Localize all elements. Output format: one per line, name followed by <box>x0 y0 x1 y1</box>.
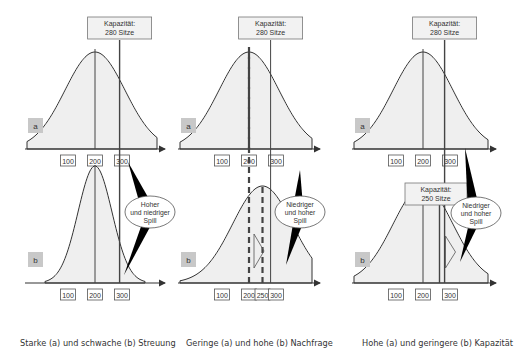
distribution-curve <box>354 52 488 149</box>
capacity-label-250-text: 250 Sitze <box>421 195 450 202</box>
tick-label: 300 <box>270 158 282 165</box>
tick-label: 100 <box>390 292 402 299</box>
spill-callout-text: und niedriger <box>130 209 170 217</box>
tick-label: 200 <box>89 292 101 299</box>
caption-nachfrage: Geringe (a) und hohe (b) Nachfrage <box>186 338 333 348</box>
spill-callout-text: und hoher <box>461 210 492 217</box>
caption-kapazitaet: Hohe (a) und geringere (b) Kapazität <box>362 338 513 348</box>
caption-streuung: Starke (a) und schwache (b) Streuung <box>20 338 176 348</box>
tick-label: 250 <box>257 292 269 299</box>
tick-label: 200 <box>417 158 429 165</box>
capacity-label-text: 280 Sitze <box>256 29 285 36</box>
tick-label: 100 <box>62 292 74 299</box>
spill-callout-text: und hoher <box>285 209 316 216</box>
tick-label: 100 <box>390 158 402 165</box>
row-label: a <box>360 122 365 131</box>
capacity-label-text: Kapazität: <box>104 20 135 28</box>
tick-label: 100 <box>216 292 228 299</box>
tick-label: 300 <box>116 292 128 299</box>
tick-label: 200 <box>417 292 429 299</box>
tick-label: 300 <box>444 292 456 299</box>
tick-label: 300 <box>116 158 128 165</box>
spill-callout-text: Spill <box>144 217 157 225</box>
capacity-label-text: 280 Sitze <box>105 29 134 36</box>
spill-callout-text: Niedriger <box>286 201 314 209</box>
tick-label: 300 <box>444 158 456 165</box>
capacity-label-text: Kapazität: <box>255 20 286 28</box>
tick-label: 100 <box>62 158 74 165</box>
spill-diagram: a100200300b100200300Kapazität:280 SitzeH… <box>0 0 531 358</box>
row-label: b <box>186 256 191 265</box>
row-label: a <box>186 122 191 131</box>
tick-label: 100 <box>216 158 228 165</box>
row-label: b <box>360 256 365 265</box>
distribution-curve <box>180 52 312 149</box>
spill-callout-text: Spill <box>294 217 307 225</box>
spill-callout-text: Spill <box>470 218 483 226</box>
capacity-label-250-text: Kapazität: <box>420 186 451 194</box>
spill-callout-text: Hoher <box>141 201 160 208</box>
row-a: a100200300 <box>25 49 165 166</box>
panel-kapazitaet: a100200300b100200300Kapazität:280 SitzeK… <box>352 17 501 300</box>
row-label: a <box>33 122 38 131</box>
panel-streuung: a100200300b100200300Kapazität:280 SitzeH… <box>25 17 175 300</box>
capacity-label-text: Kapazität: <box>429 20 460 28</box>
tick-label: 300 <box>270 292 282 299</box>
panel-nachfrage: a100200300b100200250300Kapazität:280 Sit… <box>178 17 325 300</box>
capacity-label-text: 280 Sitze <box>430 29 459 36</box>
row-label: b <box>33 256 38 265</box>
distribution-curve <box>27 52 157 149</box>
spill-callout-text: Niedriger <box>462 202 490 210</box>
tick-label: 200 <box>243 292 255 299</box>
tick-label: 200 <box>89 158 101 165</box>
row-a: a100200300 <box>352 49 496 166</box>
